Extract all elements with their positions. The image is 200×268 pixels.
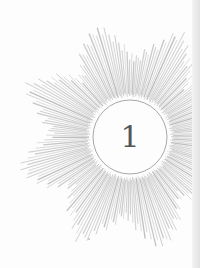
speck	[88, 238, 90, 240]
book-page: 1	[0, 0, 200, 268]
page-edge-shadow	[192, 0, 200, 268]
chapter-number: 1	[110, 112, 150, 162]
starburst-ornament	[0, 0, 200, 268]
